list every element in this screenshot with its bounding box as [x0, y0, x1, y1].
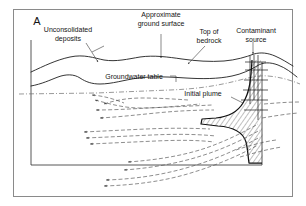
label-groundwater-table: Groundwater table — [105, 73, 163, 80]
label-approximate-ground-surface-line1: Approximate — [141, 11, 180, 19]
label-contaminant-source-line2: source — [245, 36, 266, 43]
block-diagram-svg: A Unconsolidated deposits Approximate gr… — [0, 0, 306, 206]
flow-line-8 — [90, 140, 214, 144]
flow-line-6 — [84, 128, 210, 132]
label-approximate-ground-surface-line2: ground surface — [138, 20, 185, 28]
flow-line-11 — [106, 137, 260, 180]
label-top-of-bedrock-line2: bedrock — [197, 37, 222, 44]
label-contaminant-source-line1: Contaminant — [236, 27, 276, 34]
flow-line-group — [84, 95, 300, 186]
panel-letter: A — [33, 15, 41, 27]
label-unconsolidated-deposits-line2: deposits — [55, 35, 82, 43]
flow-line-12 — [104, 145, 258, 186]
flow-line-7 — [86, 134, 216, 138]
flow-line-10 — [124, 130, 260, 170]
flow-line-16 — [264, 102, 300, 104]
label-unconsolidated-deposits-line1: Unconsolidated — [44, 26, 92, 33]
figure-container: A Unconsolidated deposits Approximate gr… — [0, 0, 306, 206]
flow-line-2 — [96, 105, 212, 110]
flow-line-1 — [95, 100, 200, 108]
flow-line-4 — [104, 98, 188, 104]
leader-tick-deposits — [92, 46, 104, 52]
label-top-of-bedrock-line1: Top of — [199, 28, 218, 36]
plume-hatch-fill — [190, 55, 280, 175]
leader-unconsolidated-deposits — [86, 43, 98, 62]
flow-line-3 — [100, 110, 214, 118]
flow-line-5 — [92, 95, 124, 103]
label-initial-plume: Initial plume — [184, 90, 221, 98]
